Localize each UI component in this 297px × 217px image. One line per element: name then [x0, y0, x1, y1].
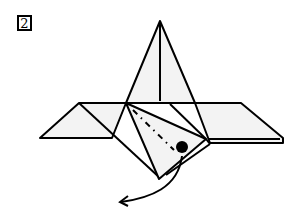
origami-diagram [0, 0, 297, 217]
right-flap [195, 103, 283, 143]
center-flap [126, 103, 206, 179]
pivot-dot [176, 141, 188, 153]
left-flap [40, 103, 126, 138]
